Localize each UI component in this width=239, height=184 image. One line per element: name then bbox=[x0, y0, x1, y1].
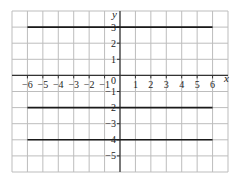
tick-labels: −6−5−4−3−2−1123456321−1−2−3−4−50xy bbox=[22, 8, 229, 161]
x-tick-label: 6 bbox=[210, 79, 215, 90]
x-tick-label: −2 bbox=[84, 79, 95, 90]
x-tick-label: −4 bbox=[53, 79, 64, 90]
x-tick-label: 2 bbox=[148, 79, 153, 90]
y-tick-label: 1 bbox=[111, 54, 116, 65]
x-tick-label: −5 bbox=[38, 79, 49, 90]
y-tick-label: −2 bbox=[105, 102, 116, 113]
x-tick-label: 4 bbox=[179, 79, 184, 90]
x-tick-label: 5 bbox=[195, 79, 200, 90]
x-tick-label: 1 bbox=[133, 79, 138, 90]
y-tick-label: −4 bbox=[105, 134, 116, 145]
x-tick-label: 3 bbox=[164, 79, 169, 90]
y-axis-label: y bbox=[111, 8, 117, 20]
y-tick-label: 2 bbox=[111, 38, 116, 49]
y-tick-label: −5 bbox=[105, 150, 116, 161]
origin-label: 0 bbox=[111, 75, 116, 86]
coordinate-plane-chart: −6−5−4−3−2−1123456321−1−2−3−4−50xy bbox=[0, 0, 239, 184]
y-tick-label: −3 bbox=[105, 118, 116, 129]
y-tick-label: 3 bbox=[111, 22, 116, 33]
x-tick-label: −6 bbox=[22, 79, 33, 90]
y-tick-label: −1 bbox=[105, 86, 116, 97]
x-tick-label: −3 bbox=[68, 79, 79, 90]
x-axis-label: x bbox=[223, 72, 229, 84]
